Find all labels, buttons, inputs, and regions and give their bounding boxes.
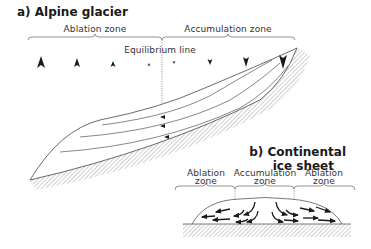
equilibrium-line-label: Equilibrium line [124, 46, 196, 55]
ice-sheet-accumulation-label: Accumulation zone [234, 169, 297, 186]
downward-arrow-icon [173, 61, 176, 64]
glacier-zones-diagram: a) Alpine glacier Ablation zone Accumula… [0, 0, 371, 249]
upward-arrow-icon [37, 56, 45, 68]
ablation-zone-label: Ablation zone [64, 25, 127, 34]
downward-arrow-icon [243, 57, 249, 67]
ablation-arrows [37, 56, 151, 68]
ice-sheet-left-ablation-label: Ablation zone [187, 169, 225, 186]
accumulation-arrows [173, 55, 288, 69]
accumulation-zone-label: Accumulation zone [184, 25, 271, 34]
ice-sheet-right-ablation-label: Ablation zone [305, 169, 343, 186]
diagram-graphics [0, 0, 371, 249]
alpine-glacier-title: a) Alpine glacier [17, 6, 128, 19]
ice-sheet-flow-arrows [202, 202, 335, 222]
continental-ice-sheet-title-line1: b) Continental [249, 146, 346, 159]
upward-arrow-icon [148, 63, 151, 66]
zone-label-line2: zone [187, 177, 225, 186]
ablation-zone-bracket [28, 34, 162, 40]
upward-arrow-icon [111, 61, 116, 67]
zone-label-line2: zone [305, 177, 343, 186]
accumulation-zone-bracket [162, 34, 295, 40]
ice-sheet-bedrock [183, 224, 351, 237]
zone-label-line2: zone [234, 177, 297, 186]
upward-arrow-icon [74, 58, 80, 67]
downward-arrow-icon [279, 55, 287, 69]
downward-arrow-icon [208, 59, 213, 65]
